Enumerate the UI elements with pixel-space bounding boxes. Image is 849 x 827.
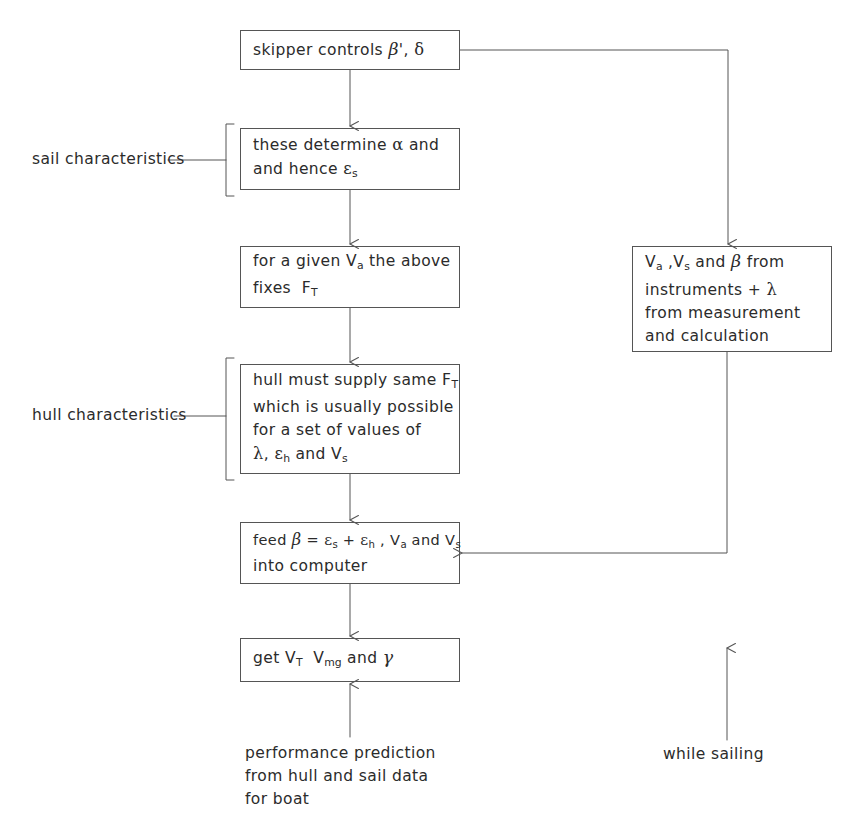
node-text-line: feed β = εs + εh , Va and Vs [253, 528, 447, 556]
node-text-line: fixes FT [253, 277, 447, 304]
bracket-sail-characteristics [226, 124, 234, 196]
node-these-determine-alpha[interactable]: these determine α and and hence εs [240, 128, 460, 190]
node-text-line: for a set of values of [253, 419, 447, 442]
connector-instruments-to-feed [462, 352, 727, 553]
node-text-line: skipper controls β', δ [253, 38, 447, 62]
node-text-line: get VT Vmg and γ [253, 646, 447, 674]
caption-line: for boat [245, 788, 436, 811]
node-text-line: and hence εs [253, 157, 447, 185]
node-feed-beta-into-computer[interactable]: feed β = εs + εh , Va and Vs into comput… [240, 522, 460, 584]
node-text-line: and calculation [645, 325, 819, 348]
label-sail-characteristics: sail characteristics [32, 150, 185, 168]
node-text-line: hull must supply same FT [253, 369, 447, 396]
bracket-hull-characteristics [226, 358, 234, 480]
node-skipper-controls[interactable]: skipper controls β', δ [240, 30, 460, 70]
caption-line: performance prediction [245, 742, 436, 765]
node-hull-must-supply[interactable]: hull must supply same FT which is usuall… [240, 364, 460, 474]
node-text-line: λ, εh and Vs [253, 442, 447, 470]
label-hull-characteristics: hull characteristics [32, 406, 187, 424]
node-text-line: from measurement [645, 302, 819, 325]
node-text-line: into computer [253, 555, 447, 578]
node-for-a-given-va[interactable]: for a given Va the above fixes FT [240, 246, 460, 308]
flowchart-canvas: skipper controls β', δ these determine α… [0, 0, 849, 827]
node-text-line: these determine α and [253, 133, 447, 157]
node-text-line: which is usually possible [253, 396, 447, 419]
node-instruments-measurement[interactable]: Va ,Vs and β from instruments + λ from m… [632, 246, 832, 352]
label-while-sailing: while sailing [663, 745, 764, 763]
caption-line: from hull and sail data [245, 765, 436, 788]
node-text-line: for a given Va the above [253, 250, 447, 277]
connector-skipper-to-instruments [460, 50, 728, 244]
node-get-vt-vmg-gamma[interactable]: get VT Vmg and γ [240, 638, 460, 682]
caption-performance-prediction: performance prediction from hull and sai… [245, 742, 436, 811]
node-text-line: instruments + λ [645, 278, 819, 302]
node-text-line: Va ,Vs and β from [645, 250, 819, 278]
